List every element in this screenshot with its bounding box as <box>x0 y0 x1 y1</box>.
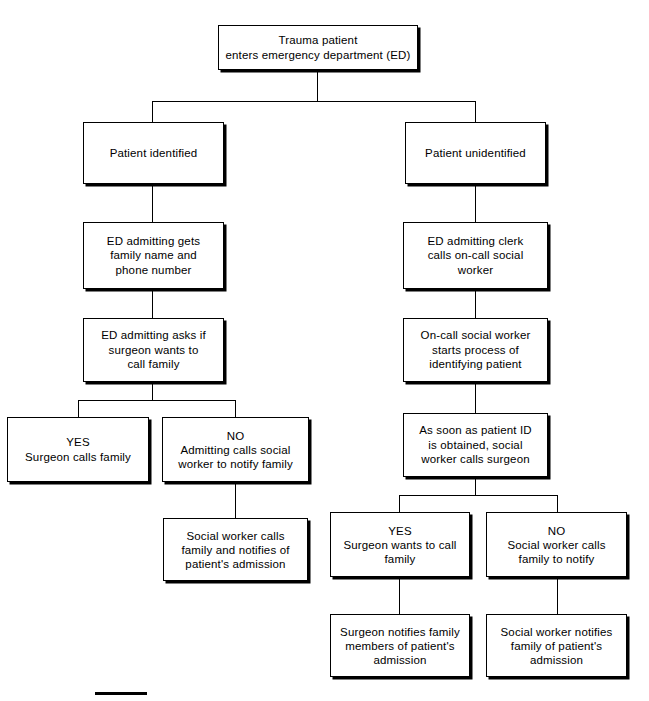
connector-right-yes-down <box>399 577 400 614</box>
node-ed-admitting-gets: ED admitting gets family name and phone … <box>83 222 224 289</box>
node-ed-admitting-gets-label: ED admitting gets family name and phone … <box>102 234 205 278</box>
node-right-yes-label: YES Surgeon wants to call family <box>338 524 461 566</box>
node-left-no-label: NO Admitting calls social worker to noti… <box>173 429 298 471</box>
footer-rule <box>95 692 147 695</box>
node-patient-id-obtained: As soon as patient ID is obtained, socia… <box>403 413 548 477</box>
connector-left-decision-down <box>152 382 153 401</box>
flowchart-canvas: Trauma patient enters emergency departme… <box>0 0 649 701</box>
node-right-no-label: NO Social worker calls family to notify <box>502 524 610 566</box>
node-social-worker-notifies-family-label: Social worker notifies family of patient… <box>496 625 618 667</box>
connector-left-2 <box>152 289 153 318</box>
node-surgeon-notifies-family: Surgeon notifies family members of patie… <box>330 614 470 677</box>
node-left-no: NO Admitting calls social worker to noti… <box>162 417 309 482</box>
node-patient-identified: Patient identified <box>83 122 224 184</box>
connector-right-no-down <box>557 577 558 614</box>
node-start: Trauma patient enters emergency departme… <box>218 25 418 70</box>
node-ed-clerk-calls-label: ED admitting clerk calls on-call social … <box>404 234 547 278</box>
connector-to-left-no <box>235 400 236 417</box>
node-patient-unidentified: Patient unidentified <box>405 122 546 184</box>
node-ed-admitting-asks-label: ED admitting asks if surgeon wants to ca… <box>96 328 211 372</box>
connector-to-right-no <box>557 495 558 512</box>
node-left-social-worker-calls-label: Social worker calls family and notifies … <box>176 529 294 571</box>
connector-to-left-identified <box>152 101 153 123</box>
node-right-no: NO Social worker calls family to notify <box>486 512 627 577</box>
node-patient-identified-label: Patient identified <box>105 146 203 161</box>
node-social-worker-starts-process: On-call social worker starts process of … <box>403 318 548 382</box>
connector-to-left-yes <box>78 400 79 417</box>
node-ed-admitting-asks: ED admitting asks if surgeon wants to ca… <box>83 318 224 382</box>
connector-right-3 <box>475 382 476 413</box>
node-ed-clerk-calls: ED admitting clerk calls on-call social … <box>403 222 548 289</box>
node-patient-unidentified-label: Patient unidentified <box>420 146 531 161</box>
connector-to-right-yes <box>399 495 400 512</box>
node-surgeon-notifies-family-label: Surgeon notifies family members of patie… <box>335 625 465 667</box>
connector-right-decision-down <box>475 477 476 496</box>
node-left-yes-label: YES Surgeon calls family <box>20 435 136 464</box>
node-patient-id-obtained-label: As soon as patient ID is obtained, socia… <box>414 423 536 467</box>
connector-left-no-down <box>235 482 236 518</box>
node-social-worker-starts-process-label: On-call social worker starts process of … <box>416 328 536 372</box>
node-left-social-worker-calls: Social worker calls family and notifies … <box>163 518 308 581</box>
node-start-label: Trauma patient enters emergency departme… <box>220 33 415 62</box>
connector-start-down <box>317 70 318 102</box>
connector-top-split-bar <box>152 101 476 102</box>
connector-right-1 <box>475 184 476 222</box>
node-social-worker-notifies-family: Social worker notifies family of patient… <box>486 614 627 677</box>
node-left-yes: YES Surgeon calls family <box>7 417 149 482</box>
connector-right-decision-bar <box>399 495 558 496</box>
connector-right-2 <box>475 289 476 318</box>
connector-to-right-unidentified <box>475 101 476 123</box>
connector-left-decision-bar <box>78 400 236 401</box>
node-right-yes: YES Surgeon wants to call family <box>330 512 470 577</box>
connector-left-1 <box>152 184 153 222</box>
